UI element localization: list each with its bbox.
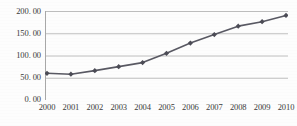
x-tick-label-2009: 2009 [254,102,271,113]
y-tick-label-100: 100. 00 [0,51,41,60]
data-point-2007 [212,32,217,37]
data-point-2004 [140,60,145,65]
y-tick-label-200: 200. 00 [0,7,41,16]
x-tick-label-2006: 2006 [182,102,199,113]
y-tick-label-150: 150. 00 [0,29,41,38]
x-tick-label-2007: 2007 [206,102,223,113]
data-point-2008 [236,24,241,29]
x-tick-label-2010: 2010 [278,102,295,113]
y-tick-label-50: 50. 00 [0,73,41,82]
x-axis: 2000200120022003200420052006200720082009… [45,102,288,118]
x-tick-label-2005: 2005 [158,102,175,113]
x-tick-label-2003: 2003 [110,102,127,113]
x-tick-label-2001: 2001 [63,102,80,113]
data-point-2009 [260,19,265,24]
data-point-2002 [92,68,97,73]
x-tick-label-2008: 2008 [230,102,247,113]
x-tick-label-2002: 2002 [86,102,103,113]
plot-svg [45,11,288,100]
y-tick-label-0: 0. 00 [0,95,41,104]
series-markers [45,13,288,77]
x-tick-label-2004: 2004 [134,102,151,113]
data-point-2005 [164,51,169,56]
line-chart: 200. 00 150. 00 100. 00 50. 00 0. 00 200… [0,0,297,126]
data-point-2003 [116,64,121,69]
data-point-2006 [188,40,193,45]
series-line [47,15,286,74]
data-point-2001 [68,72,73,77]
data-point-2010 [283,13,288,18]
x-tick-label-2000: 2000 [39,102,56,113]
y-axis: 200. 00 150. 00 100. 00 50. 00 0. 00 [0,0,44,126]
plot-area [45,11,288,100]
